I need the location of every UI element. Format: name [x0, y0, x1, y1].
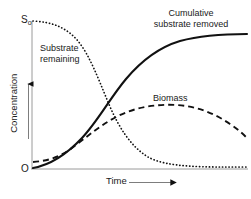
y-axis-start-subscript: o — [28, 19, 32, 26]
annotation-cumulative-line2: substrate removed — [139, 19, 243, 30]
y-axis-title: Concentration — [9, 65, 20, 141]
series-biomass — [33, 105, 246, 162]
annotation-substrate-line1: Substrate — [40, 43, 80, 54]
x-axis-title: Time — [106, 176, 127, 187]
annotation-substrate-line2: remaining — [40, 54, 80, 65]
annotation-cumulative-removed: Cumulative substrate removed — [139, 8, 243, 29]
annotation-biomass: Biomass — [153, 93, 188, 104]
annotation-substrate-remaining: Substrate remaining — [40, 43, 80, 64]
y-axis-start-label: So — [21, 15, 32, 27]
origin-label: O — [21, 164, 29, 175]
annotation-cumulative-line1: Cumulative — [139, 8, 243, 19]
chart-figure: So O Concentration Time Substrate remain… — [0, 0, 251, 199]
y-axis-start-symbol: S — [21, 14, 28, 25]
chart-plot-area — [0, 0, 251, 199]
